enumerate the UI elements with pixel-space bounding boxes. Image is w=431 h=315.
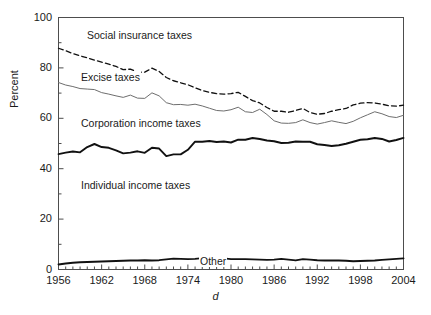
series-label: Corporation income taxes: [80, 117, 202, 129]
y-tick-label: 100: [24, 11, 52, 23]
series-label: Other: [199, 255, 227, 267]
x-axis-major-ticks: [59, 265, 404, 270]
series-label: Social insurance taxes: [86, 29, 193, 41]
x-tick-label: 1962: [82, 274, 122, 286]
x-tick-label: 1968: [125, 274, 165, 286]
x-tick-label: 1986: [254, 274, 294, 286]
series-label: Individual income taxes: [80, 179, 191, 191]
x-tick-label: 1956: [39, 274, 79, 286]
plot-canvas: [0, 0, 431, 315]
y-tick-label: 60: [24, 111, 52, 123]
y-tick-label: 20: [24, 212, 52, 224]
x-tick-label: 1992: [297, 274, 337, 286]
series-line: [59, 258, 404, 265]
x-tick-label: 2004: [384, 274, 424, 286]
x-tick-label: 1998: [340, 274, 380, 286]
y-axis-title: Percent: [8, 70, 20, 108]
x-axis-title: d: [0, 290, 431, 302]
series-label: Excise taxes: [80, 71, 141, 83]
chart-figure: 020406080100 195619621968197419801986199…: [0, 0, 431, 315]
series-line: [59, 138, 404, 156]
y-tick-label: 80: [24, 61, 52, 73]
x-tick-label: 1980: [211, 274, 251, 286]
plot-frame: [59, 18, 404, 270]
y-tick-label: 40: [24, 162, 52, 174]
x-tick-label: 1974: [168, 274, 208, 286]
